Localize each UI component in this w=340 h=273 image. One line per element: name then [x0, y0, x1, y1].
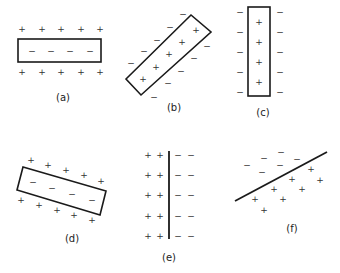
- panel-c-minus-left: − − − − −: [236, 7, 244, 97]
- svg-text:−: −: [276, 7, 284, 17]
- svg-text:−: −: [174, 231, 182, 241]
- svg-text:−: −: [187, 170, 195, 180]
- svg-text:+: +: [255, 17, 263, 27]
- svg-text:+: +: [80, 170, 88, 180]
- svg-text:+: +: [260, 205, 268, 215]
- svg-text:−: −: [276, 47, 284, 57]
- svg-text:+: +: [156, 211, 164, 221]
- svg-text:−: −: [140, 46, 148, 56]
- svg-text:+: +: [70, 210, 78, 220]
- svg-text:−: −: [260, 153, 268, 163]
- panel-d-plus-upper: + + + + +: [27, 155, 105, 186]
- panel-b-label: (b): [167, 102, 181, 113]
- svg-text:−: −: [174, 170, 182, 180]
- panel-f-label: (f): [286, 223, 297, 234]
- svg-text:−: −: [276, 160, 284, 170]
- svg-text:+: +: [88, 215, 96, 225]
- svg-text:−: −: [276, 27, 284, 37]
- svg-text:−: −: [68, 189, 76, 199]
- charge-diagram: + + + + + − − − − + + + + + (a) + + + + …: [0, 0, 340, 273]
- svg-text:+: +: [27, 155, 35, 165]
- svg-text:+: +: [53, 205, 61, 215]
- svg-text:+: +: [139, 74, 147, 84]
- svg-text:−: −: [187, 150, 195, 160]
- svg-text:+: +: [255, 57, 263, 67]
- svg-text:+: +: [178, 37, 186, 47]
- svg-text:−: −: [29, 177, 37, 187]
- panel-a: + + + + + − − − − + + + + + (a): [18, 24, 104, 103]
- svg-text:+: +: [270, 184, 278, 194]
- svg-text:−: −: [48, 183, 56, 193]
- svg-text:+: +: [156, 150, 164, 160]
- svg-text:+: +: [298, 184, 306, 194]
- svg-text:+: +: [38, 67, 46, 77]
- svg-text:−: −: [276, 67, 284, 77]
- svg-text:+: +: [152, 62, 160, 72]
- svg-text:−: −: [88, 195, 96, 205]
- panel-a-label: (a): [56, 92, 70, 103]
- panel-c: + + + + − − − − − − − − − − (c): [236, 7, 284, 118]
- svg-text:+: +: [144, 170, 152, 180]
- svg-text:+: +: [255, 37, 263, 47]
- svg-text:−: −: [203, 41, 211, 51]
- svg-text:+: +: [17, 195, 25, 205]
- svg-text:+: +: [57, 24, 65, 34]
- svg-text:+: +: [57, 67, 65, 77]
- panel-f-minus-above: − − − − − −: [243, 147, 301, 177]
- panel-e: ++ ++ ++ ++ ++ −− −− −− −− −− (e): [144, 150, 195, 263]
- svg-text:+: +: [96, 24, 104, 34]
- svg-text:+: +: [77, 24, 85, 34]
- svg-text:+: +: [18, 24, 26, 34]
- svg-text:−: −: [66, 46, 74, 56]
- panel-a-plus-top: + + + + +: [18, 24, 104, 34]
- svg-text:−: −: [236, 87, 244, 97]
- panel-c-minus-right: − − − − −: [276, 7, 284, 97]
- svg-text:−: −: [127, 58, 135, 68]
- svg-text:−: −: [277, 147, 285, 157]
- svg-text:+: +: [18, 67, 26, 77]
- panel-a-minus-inside: − − − −: [28, 46, 94, 56]
- panel-e-plus-left: ++ ++ ++ ++ ++: [144, 150, 164, 241]
- panel-e-minus-right: −− −− −− −− −−: [174, 150, 195, 241]
- svg-text:−: −: [153, 35, 161, 45]
- svg-text:−: −: [187, 211, 195, 221]
- svg-text:−: −: [166, 22, 174, 32]
- panel-c-plus-inside: + + + +: [255, 17, 263, 87]
- panel-d-label: (d): [65, 233, 79, 244]
- svg-text:+: +: [255, 77, 263, 87]
- panel-b: + + + + + − − − − − − − − − − (b): [126, 9, 211, 113]
- svg-text:+: +: [44, 160, 52, 170]
- svg-text:+: +: [62, 165, 70, 175]
- svg-text:−: −: [47, 46, 55, 56]
- svg-text:+: +: [316, 175, 324, 185]
- svg-text:+: +: [288, 174, 296, 184]
- panel-f: − − − − − − + + + + + + + + (f): [235, 147, 327, 234]
- panel-d: + + + + + − − − − + + + + + (d): [17, 155, 106, 244]
- svg-text:+: +: [156, 190, 164, 200]
- svg-text:−: −: [243, 160, 251, 170]
- svg-text:−: −: [28, 46, 36, 56]
- svg-text:−: −: [293, 154, 301, 164]
- svg-text:+: +: [77, 67, 85, 77]
- svg-text:−: −: [190, 53, 198, 63]
- svg-text:+: +: [156, 231, 164, 241]
- svg-text:+: +: [279, 194, 287, 204]
- svg-text:−: −: [187, 231, 195, 241]
- svg-text:+: +: [251, 194, 259, 204]
- svg-text:+: +: [156, 170, 164, 180]
- svg-text:−: −: [174, 211, 182, 221]
- svg-text:−: −: [236, 27, 244, 37]
- svg-text:−: −: [236, 47, 244, 57]
- svg-text:+: +: [144, 190, 152, 200]
- svg-text:−: −: [258, 167, 266, 177]
- svg-text:+: +: [192, 25, 200, 35]
- svg-text:−: −: [86, 46, 94, 56]
- panel-e-label: (e): [162, 252, 176, 263]
- svg-text:−: −: [150, 92, 158, 102]
- svg-text:+: +: [38, 24, 46, 34]
- svg-text:+: +: [165, 49, 173, 59]
- svg-text:−: −: [164, 78, 172, 88]
- panel-a-plus-bottom: + + + + +: [18, 67, 104, 77]
- svg-text:−: −: [179, 9, 187, 19]
- svg-text:−: −: [174, 190, 182, 200]
